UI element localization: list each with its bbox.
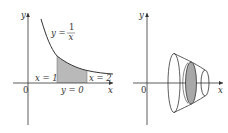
y-axis-label: y <box>138 10 144 20</box>
region-figure: y x 0 y = 1 x x = 1 x = 2 y = 0 <box>13 10 113 125</box>
y-axis-label: y <box>20 10 26 20</box>
x-axis-label: x <box>108 85 113 95</box>
origin-label: 0 <box>141 85 146 95</box>
curve-label-numerator: 1 <box>69 22 74 32</box>
cross-section-disk <box>186 62 197 104</box>
solid-figure: y x 0 <box>133 10 223 125</box>
curve-label-denominator: x <box>69 32 74 42</box>
label-x-equals-1: x = 1 <box>35 73 58 83</box>
origin-label: 0 <box>23 85 28 95</box>
label-y-equals-0: y = 0 <box>60 85 84 95</box>
curve-label-lhs: y = <box>50 28 66 38</box>
label-x-equals-2: x = 2 <box>89 73 112 83</box>
x-axis-label: x <box>218 85 223 95</box>
